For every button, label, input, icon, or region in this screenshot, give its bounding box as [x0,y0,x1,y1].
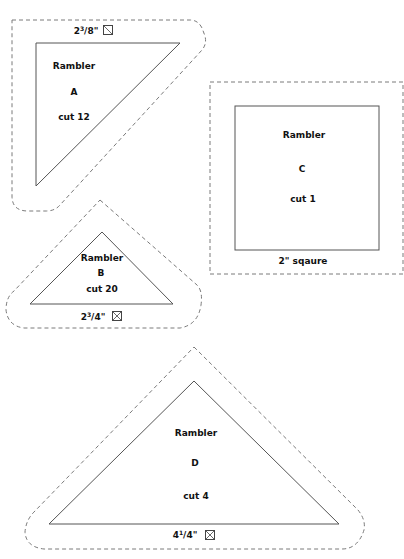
template-a-letter: A [71,88,78,97]
size-denominator: /8" [84,26,98,36]
template-b-cut-count: cut 20 [86,285,118,294]
template-d-letter: D [191,459,198,468]
template-a-cut-count: cut 12 [58,113,90,122]
size-denominator: /4" [91,312,105,322]
template-a-size-label: 23/8" [74,26,99,36]
template-d-name: Rambler [175,429,217,438]
template-a-name: Rambler [53,62,95,71]
template-c-size-label: 2" sqaure [279,257,328,266]
templates-canvas [0,0,404,559]
quarter-square-cross-icon [112,311,122,321]
template-b-size-label: 23/4" [81,312,106,322]
template-d-cut-count: cut 4 [183,492,208,501]
template-b-letter: B [98,269,105,278]
quarter-square-cross-icon [205,530,215,540]
template-d-cut-line [49,381,339,524]
half-square-diagonal-icon [103,25,113,35]
template-c-cut-line [235,106,379,250]
template-c-letter: C [299,165,306,174]
template-b-name: Rambler [81,254,123,263]
template-d-size-label: 41/4" [173,530,198,540]
template-c-name: Rambler [283,131,325,140]
size-denominator: /4" [183,530,197,540]
template-c-cut-count: cut 1 [290,195,315,204]
